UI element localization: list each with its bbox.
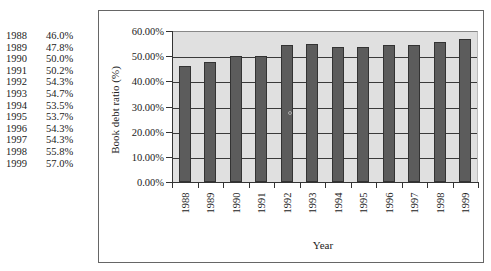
table-row: 199855.8%: [6, 146, 96, 158]
x-tick-label: 1996: [383, 193, 394, 214]
table-value: 54.7%: [46, 88, 96, 100]
x-tick: [223, 182, 224, 188]
x-tick-label: 1994: [332, 193, 343, 214]
bar-1999: [459, 39, 471, 182]
x-tick-label: 1991: [256, 193, 267, 214]
x-tick-label: 1997: [409, 193, 420, 214]
x-tick: [300, 182, 301, 188]
x-tick: [325, 182, 326, 188]
table-year: 1992: [6, 76, 46, 88]
x-axis-title: Year: [313, 239, 333, 251]
x-tick-label: 1992: [281, 193, 292, 214]
x-tick-label: 1998: [434, 193, 445, 214]
y-tick: [166, 81, 172, 82]
x-tick: [249, 182, 250, 188]
table-value: 53.7%: [46, 111, 96, 123]
table-value: 55.8%: [46, 146, 96, 158]
x-tick: [453, 182, 454, 188]
x-tick-label: 1995: [358, 193, 369, 214]
table-value: 54.3%: [46, 76, 96, 88]
x-tick-label: 1993: [307, 193, 318, 214]
table-row: 199957.0%: [6, 158, 96, 170]
table-year: 1997: [6, 134, 46, 146]
table-value: 57.0%: [46, 158, 96, 170]
bar-1995: [357, 47, 369, 182]
y-tick: [166, 56, 172, 57]
bar-1989: [204, 62, 216, 182]
table-value: 54.3%: [46, 134, 96, 146]
x-tick: [198, 182, 199, 188]
table-row: 199050.0%: [6, 53, 96, 65]
bar-1998: [434, 42, 446, 182]
y-tick-label: 0.00%: [104, 177, 164, 188]
table-year: 1988: [6, 30, 46, 42]
bar-1991: [255, 56, 267, 182]
table-year: 1995: [6, 111, 46, 123]
table-row: 199754.3%: [6, 134, 96, 146]
table-year: 1999: [6, 158, 46, 170]
table-row: 199254.3%: [6, 76, 96, 88]
x-tick: [274, 182, 275, 188]
table-row: 199553.7%: [6, 111, 96, 123]
y-tick: [166, 107, 172, 108]
table-row: 199453.5%: [6, 100, 96, 112]
gridline: [172, 82, 477, 83]
table-row: 199354.7%: [6, 88, 96, 100]
table-year: 1998: [6, 146, 46, 158]
bar-1996: [383, 45, 395, 182]
y-axis-title: Book debt ratio (%): [109, 66, 121, 154]
table-row: 198846.0%: [6, 30, 96, 42]
bar-1993: [306, 44, 318, 182]
gridline: [172, 158, 477, 159]
x-tick-label: 1989: [205, 193, 216, 214]
artifact-dot: [288, 111, 292, 115]
y-tick: [166, 132, 172, 133]
gridline: [172, 108, 477, 109]
table-year: 1989: [6, 42, 46, 54]
y-tick: [166, 157, 172, 158]
x-tick: [402, 182, 403, 188]
table-value: 47.8%: [46, 42, 96, 54]
bar-1997: [408, 45, 420, 182]
x-tick-label: 1990: [230, 193, 241, 214]
x-tick-label: 1988: [179, 193, 190, 214]
table-year: 1991: [6, 65, 46, 77]
x-tick: [478, 182, 479, 188]
x-tick: [427, 182, 428, 188]
y-axis-line: [172, 31, 173, 183]
table-value: 50.2%: [46, 65, 96, 77]
table-value: 54.3%: [46, 123, 96, 135]
table-year: 1994: [6, 100, 46, 112]
table-value: 50.0%: [46, 53, 96, 65]
x-axis-line: [166, 182, 478, 183]
y-tick-label: 60.00%: [104, 26, 164, 37]
data-table: 198846.0%198947.8%199050.0%199150.2%1992…: [6, 30, 96, 169]
x-tick: [172, 182, 173, 188]
x-tick: [351, 182, 352, 188]
y-tick: [166, 31, 172, 32]
bar-1994: [332, 47, 344, 182]
table-value: 53.5%: [46, 100, 96, 112]
table-row: 198947.8%: [6, 42, 96, 54]
y-tick-label: 50.00%: [104, 51, 164, 62]
table-year: 1993: [6, 88, 46, 100]
table-row: 199150.2%: [6, 65, 96, 77]
table-year: 1996: [6, 123, 46, 135]
x-tick: [376, 182, 377, 188]
bar-1988: [179, 66, 191, 182]
gridline: [172, 133, 477, 134]
bar-1990: [230, 56, 242, 182]
plot-area: [172, 31, 478, 182]
x-tick-label: 1999: [460, 193, 471, 214]
gridline: [172, 57, 477, 58]
table-year: 1990: [6, 53, 46, 65]
table-value: 46.0%: [46, 30, 96, 42]
table-row: 199654.3%: [6, 123, 96, 135]
